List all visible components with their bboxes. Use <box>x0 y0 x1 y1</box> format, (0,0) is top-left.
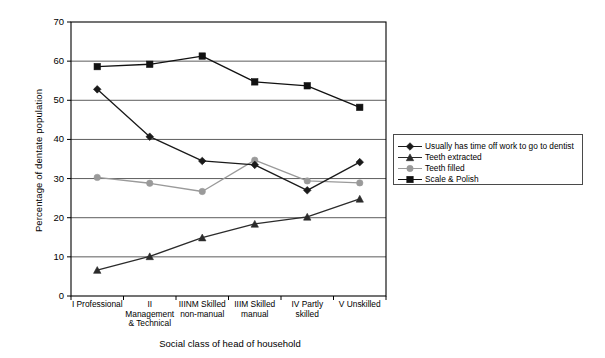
legend-item: Scale & Polish <box>398 174 479 186</box>
triangle-marker-icon <box>406 154 413 161</box>
y-tick-label: 40 <box>38 134 64 144</box>
diamond-marker-icon <box>398 141 422 152</box>
square-marker-icon <box>199 53 205 59</box>
square-marker-icon <box>94 63 100 69</box>
legend-marker <box>398 141 422 152</box>
legend-item: Teeth extracted <box>398 151 482 163</box>
legend-item: Usually has time off work to go to denti… <box>398 140 574 152</box>
circle-marker-icon <box>94 174 100 180</box>
square-marker-icon <box>147 61 153 67</box>
circle-marker-icon <box>398 163 422 174</box>
square-marker-icon <box>407 176 413 182</box>
line-chart: Percentage of dentate population 0102030… <box>0 0 605 358</box>
y-axis-ticks <box>67 22 71 296</box>
diamond-marker-icon <box>406 142 414 150</box>
square-marker-icon <box>357 104 363 110</box>
square-marker-icon <box>398 174 422 185</box>
chart-legend: Usually has time off work to go to denti… <box>393 134 583 185</box>
triangle-marker-icon <box>398 152 422 163</box>
legend-item: Teeth filled <box>398 162 465 174</box>
x-axis-category-label: V Unskilled <box>326 300 395 310</box>
legend-marker <box>398 174 422 185</box>
circle-marker-icon <box>407 165 413 171</box>
square-marker-icon <box>304 83 310 89</box>
circle-marker-icon <box>304 178 310 184</box>
legend-marker <box>398 152 422 163</box>
circle-marker-icon <box>199 188 205 194</box>
y-tick-label: 70 <box>38 17 64 27</box>
y-tick-label: 10 <box>38 252 64 262</box>
square-marker-icon <box>252 79 258 85</box>
legend-item-label: Teeth extracted <box>425 153 482 162</box>
y-tick-label: 60 <box>38 56 64 66</box>
legend-item-label: Usually has time off work to go to denti… <box>425 142 574 151</box>
circle-marker-icon <box>357 180 363 186</box>
y-tick-label: 20 <box>38 213 64 223</box>
legend-marker <box>398 163 422 174</box>
x-axis-title: Social class of head of household <box>0 338 460 349</box>
legend-item-label: Scale & Polish <box>425 175 479 184</box>
y-tick-label: 0 <box>38 291 64 301</box>
plot-background <box>71 22 386 296</box>
circle-marker-icon <box>147 180 153 186</box>
legend-item-label: Teeth filled <box>425 164 465 173</box>
y-tick-label: 50 <box>38 95 64 105</box>
y-tick-label: 30 <box>38 174 64 184</box>
